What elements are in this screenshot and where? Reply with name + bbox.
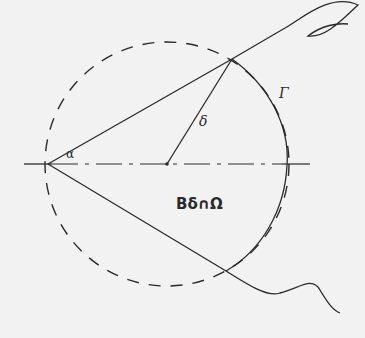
upper-boundary: [48, 2, 358, 164]
lower-boundary: [48, 164, 340, 313]
region-label: Bδ∩Ω: [176, 195, 223, 213]
radius-delta-label: δ: [199, 113, 207, 129]
angle-alpha-label: α: [66, 147, 74, 161]
radius-line: [167, 59, 232, 164]
diagram-canvas: [0, 0, 365, 338]
boundary-gamma-label: Γ: [279, 85, 289, 101]
